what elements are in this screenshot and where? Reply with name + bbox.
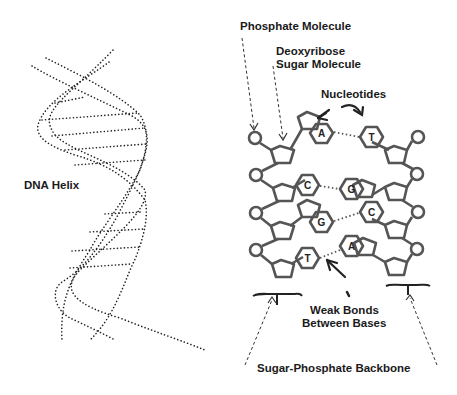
base-a-1: A — [318, 128, 325, 139]
weak-bonds-label-line1: Weak Bonds — [310, 304, 379, 317]
base-t-4: T — [304, 253, 310, 264]
base-c-3: C — [368, 207, 375, 218]
weak-bonds-label-line2: Between Bases — [302, 317, 386, 330]
dna-helix-drawing: A T C G G C T A — [0, 0, 457, 395]
base-c-2: C — [304, 180, 311, 191]
base-g-2: G — [348, 184, 356, 195]
deoxyribose-label-line2: Sugar Molecule — [276, 58, 361, 71]
dna-helix-label: DNA Helix — [24, 179, 79, 192]
base-t-1: T — [368, 132, 374, 143]
deoxyribose-label-line1: Deoxyribose — [276, 45, 345, 58]
nucleotides-label: Nucleotides — [321, 88, 386, 101]
base-g-3: G — [318, 217, 326, 228]
backbone-label: Sugar-Phosphate Backbone — [257, 362, 410, 375]
base-a-4: A — [348, 241, 355, 252]
phosphate-molecule-label: Phosphate Molecule — [240, 20, 351, 33]
